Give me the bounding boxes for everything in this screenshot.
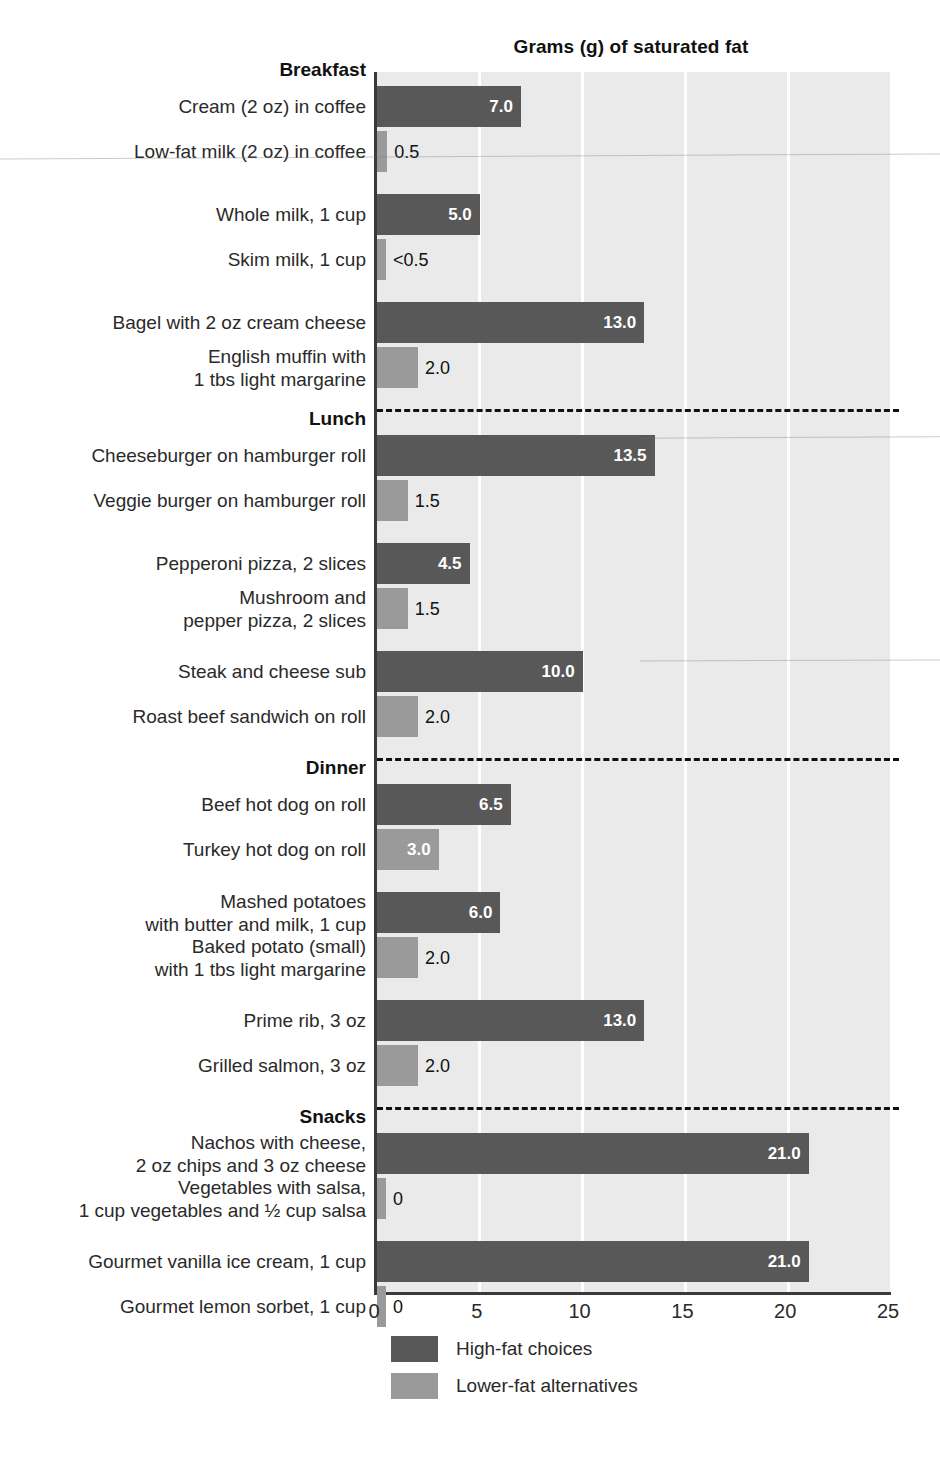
legend-label: Lower-fat alternatives xyxy=(456,1375,638,1397)
item-label: Prime rib, 3 oz xyxy=(0,1009,366,1032)
group-label: Snacks xyxy=(0,1106,366,1128)
bar-high-fat: 10.0 xyxy=(377,651,583,692)
bar-value-label: 6.5 xyxy=(479,795,503,815)
bar-row: 10.0 xyxy=(377,651,891,692)
bar-high-fat: 6.5 xyxy=(377,784,511,825)
item-label: Steak and cheese sub xyxy=(0,660,366,683)
x-tick-label-25: 25 xyxy=(877,1300,899,1323)
bar-row: 13.0 xyxy=(377,1000,891,1041)
bar-row: 1.5 xyxy=(377,588,891,629)
item-label: Pepperoni pizza, 2 slices xyxy=(0,552,366,575)
bar-row: 6.5 xyxy=(377,784,891,825)
bar-value-label: 3.0 xyxy=(407,840,431,860)
bar-row: 21.0 xyxy=(377,1241,891,1282)
bar-value-label: 4.5 xyxy=(438,554,462,574)
bar-value-label: 2.0 xyxy=(425,706,450,727)
item-label: Gourmet lemon sorbet, 1 cup xyxy=(0,1295,366,1318)
bar-row: 0.5 xyxy=(377,131,891,172)
item-label: Grilled salmon, 3 oz xyxy=(0,1054,366,1077)
bar-high-fat: 13.0 xyxy=(377,302,644,343)
x-tick-label-0: 0 xyxy=(368,1300,379,1323)
bar-high-fat: 4.5 xyxy=(377,543,470,584)
group-divider xyxy=(377,409,899,412)
plot-area: 7.00.55.0<0.513.02.013.51.54.51.510.02.0… xyxy=(374,72,891,1295)
item-label: Mushroom andpepper pizza, 2 slices xyxy=(0,586,366,632)
bar-high-fat: 6.0 xyxy=(377,892,500,933)
item-label: Low-fat milk (2 oz) in coffee xyxy=(0,140,366,163)
bar-row: 2.0 xyxy=(377,696,891,737)
item-label: Beef hot dog on roll xyxy=(0,793,366,816)
bar-value-label: 13.0 xyxy=(603,1011,636,1031)
item-label: Bagel with 2 oz cream cheese xyxy=(0,311,366,334)
bars-layer: 7.00.55.0<0.513.02.013.51.54.51.510.02.0… xyxy=(377,72,891,1292)
bar-high-fat: 13.0 xyxy=(377,1000,644,1041)
x-tick-label-20: 20 xyxy=(774,1300,796,1323)
item-label: Roast beef sandwich on roll xyxy=(0,705,366,728)
bar-row: 7.0 xyxy=(377,86,891,127)
legend-item: Lower-fat alternatives xyxy=(391,1373,638,1399)
item-label: Nachos with cheese,2 oz chips and 3 oz c… xyxy=(0,1131,366,1177)
group-label: Lunch xyxy=(0,408,366,430)
bar-row: 4.5 xyxy=(377,543,891,584)
x-axis-tick-labels: 0510152025 xyxy=(374,1300,888,1326)
bar-high-fat: 13.5 xyxy=(377,435,655,476)
x-tick-label-15: 15 xyxy=(671,1300,693,1323)
bar-row: 1.5 xyxy=(377,480,891,521)
bar-value-label: 13.0 xyxy=(603,313,636,333)
item-label: Skim milk, 1 cup xyxy=(0,248,366,271)
item-label: Baked potato (small)with 1 tbs light mar… xyxy=(0,935,366,981)
item-label: Mashed potatoeswith butter and milk, 1 c… xyxy=(0,890,366,936)
bar-high-fat: 21.0 xyxy=(377,1133,809,1174)
bar-high-fat: 5.0 xyxy=(377,194,480,235)
bar-row: <0.5 xyxy=(377,239,891,280)
bar-value-label: 21.0 xyxy=(768,1144,801,1164)
bar-value-label: 2.0 xyxy=(425,1055,450,1076)
bar-row: 6.0 xyxy=(377,892,891,933)
bar-row: 21.0 xyxy=(377,1133,891,1174)
legend-label: High-fat choices xyxy=(456,1338,592,1360)
group-label: Dinner xyxy=(0,757,366,779)
bar-value-label: 10.0 xyxy=(542,662,575,682)
bar-lower-fat xyxy=(377,131,387,172)
bar-value-label: 2.0 xyxy=(425,357,450,378)
x-tick-label-10: 10 xyxy=(568,1300,590,1323)
bar-row: 0 xyxy=(377,1178,891,1219)
chart-title: Grams (g) of saturated fat xyxy=(374,36,888,58)
item-label: Gourmet vanilla ice cream, 1 cup xyxy=(0,1250,366,1273)
bar-value-label: 0 xyxy=(393,1188,403,1209)
bar-lower-fat xyxy=(377,588,408,629)
bar-lower-fat xyxy=(377,239,386,280)
bar-row: 2.0 xyxy=(377,347,891,388)
bar-value-label: 6.0 xyxy=(469,903,493,923)
bar-row: 2.0 xyxy=(377,937,891,978)
item-label: Veggie burger on hamburger roll xyxy=(0,489,366,512)
bar-value-label: 2.0 xyxy=(425,947,450,968)
bar-value-label: 0.5 xyxy=(394,141,419,162)
legend-swatch-high xyxy=(391,1336,438,1362)
bar-value-label: 1.5 xyxy=(415,598,440,619)
group-label: Breakfast xyxy=(0,59,366,81)
bar-lower-fat xyxy=(377,937,418,978)
bar-row: 13.0 xyxy=(377,302,891,343)
bar-value-label: 13.5 xyxy=(613,446,646,466)
item-label: Whole milk, 1 cup xyxy=(0,203,366,226)
legend-item: High-fat choices xyxy=(391,1336,638,1362)
item-label: Cheeseburger on hamburger roll xyxy=(0,444,366,467)
group-divider xyxy=(377,758,899,761)
bar-lower-fat: 3.0 xyxy=(377,829,439,870)
bar-value-label: 7.0 xyxy=(489,97,513,117)
legend-swatch-low xyxy=(391,1373,438,1399)
bar-row: 5.0 xyxy=(377,194,891,235)
item-label: Vegetables with salsa,1 cup vegetables a… xyxy=(0,1176,366,1222)
item-label: Turkey hot dog on roll xyxy=(0,838,366,861)
bar-value-label: <0.5 xyxy=(393,249,429,270)
bar-lower-fat xyxy=(377,347,418,388)
x-tick-label-5: 5 xyxy=(471,1300,482,1323)
item-label: Cream (2 oz) in coffee xyxy=(0,95,366,118)
bar-lower-fat xyxy=(377,1178,386,1219)
bar-lower-fat xyxy=(377,696,418,737)
bar-lower-fat xyxy=(377,1045,418,1086)
bar-high-fat: 7.0 xyxy=(377,86,521,127)
bar-row: 2.0 xyxy=(377,1045,891,1086)
chart-legend: High-fat choicesLower-fat alternatives xyxy=(391,1336,638,1410)
